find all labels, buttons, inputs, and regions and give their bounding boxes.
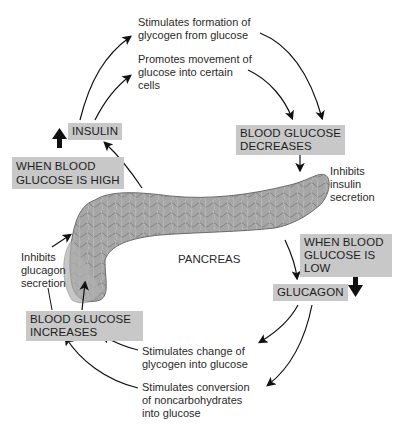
when-high-box: WHEN BLOOD GLUCOSE IS HIGH bbox=[12, 157, 124, 189]
when-high-line-2: GLUCOSE IS HIGH bbox=[16, 173, 120, 187]
arrow-insulin-to-glycogen bbox=[80, 37, 130, 120]
note-line: secretion bbox=[21, 277, 66, 290]
note-line: of noncarbohydrates bbox=[142, 394, 250, 407]
note-line: into glucose bbox=[142, 407, 250, 420]
insulin-box: INSULIN bbox=[68, 123, 122, 140]
note-line: Stimulates conversion bbox=[142, 381, 250, 394]
note-line: Stimulates change of bbox=[142, 345, 248, 358]
glucagon-box: GLUCAGON bbox=[273, 284, 348, 301]
note-line: glycogen from glucose bbox=[138, 29, 251, 42]
when-low-box: WHEN BLOOD GLUCOSE IS LOW bbox=[300, 234, 392, 277]
note-line: Inhibits bbox=[330, 165, 375, 178]
arrow-glucagon-to-change bbox=[260, 305, 298, 342]
pancreas-label: PANCREAS bbox=[178, 253, 240, 265]
down-arrow-icon bbox=[348, 275, 363, 297]
arrow-insulin-to-movement bbox=[95, 76, 130, 120]
note-line: Stimulates formation of bbox=[138, 16, 251, 29]
line-inhibits-glucagon bbox=[48, 288, 52, 310]
note-noncarb-conversion: Stimulates conversion of noncarbohydrate… bbox=[142, 381, 250, 420]
when-high-line-1: WHEN BLOOD bbox=[16, 159, 120, 173]
note-line: cells bbox=[138, 79, 252, 92]
note-glucose-movement: Promotes movement of glucose into certai… bbox=[138, 53, 252, 92]
note-line: glucose into certain bbox=[138, 66, 252, 79]
note-inhibits-insulin: Inhibits insulin secretion bbox=[330, 165, 375, 204]
insulin-label: INSULIN bbox=[72, 125, 118, 137]
when-low-line-1: WHEN BLOOD bbox=[304, 236, 384, 249]
arrow-conversion-to-increases bbox=[66, 338, 138, 388]
note-line: secretion bbox=[330, 191, 375, 204]
note-line: glucagon bbox=[21, 264, 66, 277]
note-line: Inhibits bbox=[21, 251, 66, 264]
note-line: insulin bbox=[330, 178, 375, 191]
increases-line-1: BLOOD GLUCOSE bbox=[30, 313, 131, 326]
arrow-pancreas-to-glucagon bbox=[285, 240, 297, 278]
arrow-glycogen-to-decreases bbox=[260, 33, 322, 118]
decreases-line-1: BLOOD GLUCOSE bbox=[240, 127, 341, 140]
up-arrow-icon bbox=[52, 128, 67, 148]
glucagon-label: GLUCAGON bbox=[277, 286, 344, 298]
when-low-line-3: LOW bbox=[304, 262, 384, 275]
decreases-line-2: DECREASES bbox=[240, 140, 341, 153]
increases-line-2: INCREASES bbox=[30, 326, 131, 339]
note-glycogen-change: Stimulates change of glycogen into gluco… bbox=[142, 345, 248, 371]
when-low-line-2: GLUCOSE IS bbox=[304, 249, 384, 262]
increases-box: BLOOD GLUCOSE INCREASES bbox=[26, 311, 143, 341]
note-inhibits-glucagon: Inhibits glucagon secretion bbox=[21, 251, 66, 290]
note-line: Promotes movement of bbox=[138, 53, 252, 66]
note-line: glycogen into glucose bbox=[142, 358, 248, 371]
arrow-inhibits-glucagon bbox=[52, 235, 70, 247]
note-glycogen-formation: Stimulates formation of glycogen from gl… bbox=[138, 16, 251, 42]
decreases-box: BLOOD GLUCOSE DECREASES bbox=[236, 125, 345, 155]
arrow-movement-to-decreases bbox=[248, 70, 292, 118]
